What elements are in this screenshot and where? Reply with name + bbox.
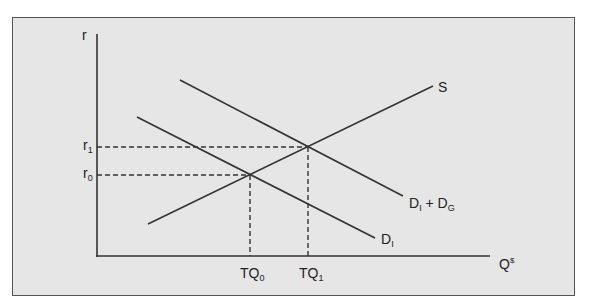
total-demand-label: DI + DG (409, 196, 455, 213)
tq0-label: TQ0 (240, 266, 264, 283)
supply-curve (148, 86, 433, 224)
r0-label: r0 (83, 166, 93, 183)
private-demand-curve (137, 117, 375, 238)
y-axis-label: r (82, 28, 87, 42)
private-demand-label: DI (381, 232, 394, 249)
x-axis-label: Q$ (499, 257, 514, 271)
supply-label: S (438, 80, 447, 94)
r1-label: r1 (83, 138, 93, 155)
tq1-label: TQ1 (299, 266, 323, 283)
total-demand-curve (180, 80, 403, 196)
